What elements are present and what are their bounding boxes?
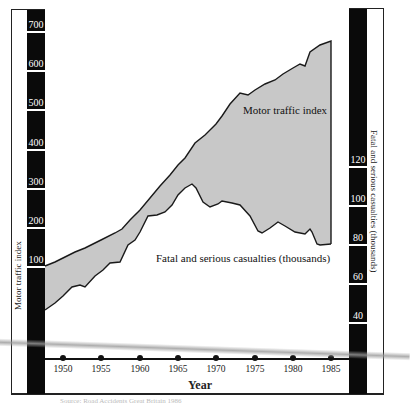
right-axis-tick-label: 60 — [349, 272, 367, 282]
source-caption: Source: Road Accidents Great Britain 198… — [60, 397, 182, 404]
x-axis-tick-label: 1970 — [201, 364, 231, 374]
x-axis-tick-dot — [328, 355, 334, 361]
left-axis-tick — [27, 31, 45, 33]
left-axis-tick — [27, 266, 45, 268]
left-axis-tick — [27, 227, 45, 229]
x-axis-line — [45, 358, 349, 360]
left-axis-tick — [27, 188, 45, 190]
x-axis-tick-dot — [60, 355, 66, 361]
x-axis-tick-dot — [137, 355, 143, 361]
x-axis-tick-dot — [175, 355, 181, 361]
right-axis-tick — [349, 166, 367, 168]
left-axis-tick-label: 200 — [27, 216, 45, 226]
right-axis-tick — [349, 322, 367, 324]
right-axis-tick — [349, 244, 367, 246]
gap-fill-area — [45, 41, 331, 310]
x-axis-tick-label: 1960 — [125, 364, 155, 374]
x-axis-tick-dot — [252, 355, 258, 361]
right-axis-tick-label: 120 — [349, 155, 367, 165]
x-axis-tick-label: 1980 — [278, 364, 308, 374]
left-axis-tick-label: 400 — [27, 138, 45, 148]
x-axis-title: Year — [170, 378, 230, 393]
left-axis-tick — [27, 109, 45, 111]
casualties-series-label: Fatal and serious casualties (thousands) — [156, 252, 330, 264]
left-axis-tick-label: 600 — [27, 59, 45, 69]
x-axis-tick-label: 1975 — [240, 364, 270, 374]
left-axis-tick — [27, 70, 45, 72]
x-axis-tick-label: 1985 — [316, 364, 346, 374]
x-axis-tick-label: 1965 — [163, 364, 193, 374]
right-axis-tick-label: 80 — [349, 233, 367, 243]
left-axis-tick-label: 700 — [27, 20, 45, 30]
x-axis-tick-label: 1950 — [48, 364, 78, 374]
x-axis-tick-dot — [98, 355, 104, 361]
left-axis-tick-label: 300 — [27, 177, 45, 187]
right-axis-tick — [349, 283, 367, 285]
left-axis-tick-label: 500 — [27, 98, 45, 108]
left-axis-tick — [27, 149, 45, 151]
x-axis-tick-label: 1955 — [86, 364, 116, 374]
motor-traffic-series-label: Motor traffic index — [243, 104, 327, 116]
right-axis-tick-label: 100 — [349, 194, 367, 204]
right-axis-tick-label: 40 — [349, 311, 367, 321]
right-axis-tick — [349, 205, 367, 207]
left-axis-tick-label: 100 — [27, 255, 45, 265]
x-axis-tick-dot — [290, 355, 296, 361]
x-axis-tick-dot — [213, 355, 219, 361]
